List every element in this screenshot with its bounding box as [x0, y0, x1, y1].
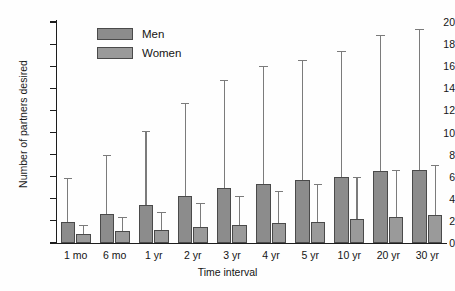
legend-label-women: Women: [142, 47, 181, 59]
error-bar-cap: [415, 29, 424, 30]
bar-men-5-yr: [295, 180, 310, 243]
y-axis-title: Number of partners desired: [17, 29, 29, 219]
error-bar-stem: [263, 66, 264, 184]
error-bar-cap: [353, 177, 362, 178]
error-bar-stem: [224, 80, 225, 188]
legend-swatch-women-icon: [97, 47, 133, 59]
error-bar-cap: [235, 196, 244, 197]
error-bar-stem: [419, 29, 420, 170]
error-bar-cap: [337, 51, 346, 52]
legend-swatch-men-icon: [97, 28, 133, 40]
error-bar-cap: [103, 155, 112, 156]
bar-women-5-yr: [311, 222, 326, 243]
bar-women-3-yr: [232, 225, 247, 243]
bar-women-4-yr: [272, 223, 287, 243]
bar-men-3-yr: [217, 188, 232, 243]
error-bar-cap: [259, 66, 268, 67]
x-axis-tick-label: 30 yr: [401, 249, 453, 261]
bar-women-30-yr: [428, 215, 443, 243]
error-bar-cap: [118, 217, 127, 218]
error-bar-cap: [392, 170, 401, 171]
error-bar-cap: [196, 203, 205, 204]
error-bar-stem: [302, 60, 303, 180]
error-bar-stem: [83, 225, 84, 233]
error-bar-stem: [239, 196, 240, 225]
legend-item-women: Women: [97, 45, 181, 61]
chart-legend: Men Women: [97, 26, 181, 64]
error-bar-cap: [314, 184, 323, 185]
error-bar-stem: [278, 191, 279, 223]
error-bar-stem: [122, 217, 123, 231]
bar-women-20-yr: [389, 217, 404, 243]
error-bar-stem: [317, 184, 318, 222]
error-bar-cap: [275, 191, 284, 192]
error-bar-cap: [79, 225, 88, 226]
bar-men-1-mo: [61, 222, 76, 243]
bar-women-1-yr: [154, 230, 169, 243]
error-bar-stem: [185, 103, 186, 196]
bar-men-2-yr: [178, 196, 193, 243]
error-bar-stem: [67, 178, 68, 222]
x-axis-title: Time interval: [0, 266, 455, 278]
error-bar-cap: [64, 178, 73, 179]
bar-men-4-yr: [256, 184, 271, 243]
error-bar-cap: [298, 60, 307, 61]
error-bar-cap: [142, 131, 151, 132]
error-bar-stem: [435, 165, 436, 216]
bar-men-1-yr: [139, 205, 154, 243]
bar-men-30-yr: [412, 170, 427, 243]
error-bar-cap: [431, 165, 440, 166]
error-bar-stem: [396, 170, 397, 218]
legend-item-men: Men: [97, 26, 181, 42]
error-bar-stem: [145, 131, 146, 205]
chart-figure: Number of partners desired 0246810121416…: [0, 0, 455, 291]
bar-women-10-yr: [350, 219, 365, 243]
legend-label-men: Men: [142, 28, 164, 40]
bar-men-6-mo: [100, 214, 115, 243]
error-bar-cap: [181, 103, 190, 104]
bar-women-6-mo: [115, 231, 130, 243]
bar-men-20-yr: [373, 171, 388, 243]
error-bar-stem: [341, 51, 342, 176]
error-bar-cap: [157, 212, 166, 213]
bar-women-1-mo: [76, 234, 91, 243]
bar-women-2-yr: [193, 227, 208, 243]
error-bar-stem: [200, 203, 201, 227]
bar-men-10-yr: [334, 177, 349, 243]
error-bar-cap: [220, 80, 229, 81]
error-bar-stem: [106, 155, 107, 215]
error-bar-cap: [376, 35, 385, 36]
error-bar-stem: [356, 177, 357, 219]
error-bar-stem: [161, 212, 162, 230]
error-bar-stem: [380, 35, 381, 171]
